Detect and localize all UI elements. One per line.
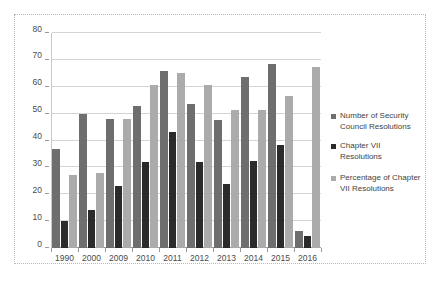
bar-2011-series-2[interactable] (177, 73, 185, 248)
x-tick-label-2014: 2014 (244, 253, 263, 263)
x-tick-mark-3 (132, 248, 133, 252)
x-tick-mark-2 (105, 248, 106, 252)
x-tick-mark-9 (294, 248, 295, 252)
y-tick-mark-0 (45, 247, 49, 248)
bar-group-2013 (213, 33, 240, 248)
bar-2000-series-0[interactable] (79, 114, 87, 248)
bar-2016-series-0[interactable] (295, 231, 303, 248)
x-tick-mark-5 (186, 248, 187, 252)
y-tick-label-40: 40 (33, 132, 42, 141)
x-tick-mark-8 (267, 248, 268, 252)
y-tick-label-50: 50 (33, 105, 42, 114)
bar-2013-series-1[interactable] (223, 184, 231, 249)
x-tick-mark-0 (51, 248, 52, 252)
x-tick-label-2009: 2009 (109, 253, 128, 263)
bar-group-2012 (186, 33, 213, 248)
legend-item-2[interactable]: Percentage of Chapter VII Resolutions (331, 173, 423, 194)
bar-2010-series-2[interactable] (150, 85, 158, 248)
bar-2014-series-1[interactable] (250, 161, 258, 248)
x-tick-label-2015: 2015 (271, 253, 290, 263)
bar-2011-series-1[interactable] (169, 132, 177, 248)
bar-2016-series-2[interactable] (312, 67, 320, 248)
x-tick-label-2012: 2012 (190, 253, 209, 263)
bar-2009-series-0[interactable] (106, 119, 114, 248)
legend-item-0[interactable]: Number of Security Council Resolutions (331, 111, 423, 132)
bar-2011-series-0[interactable] (160, 71, 168, 248)
bar-2014-series-2[interactable] (258, 110, 266, 248)
bar-2009-series-1[interactable] (115, 186, 123, 248)
bar-2000-series-1[interactable] (88, 210, 96, 248)
bar-2012-series-2[interactable] (204, 85, 212, 248)
bar-2000-series-2[interactable] (96, 173, 104, 248)
bar-group-1990 (51, 33, 78, 248)
legend-label-1: Chapter VII Resolutions (340, 141, 423, 162)
bar-group-2016 (294, 33, 321, 248)
y-tick-mark-50 (45, 113, 49, 114)
bar-2015-series-0[interactable] (268, 64, 276, 248)
x-tick-mark-7 (240, 248, 241, 252)
bar-2013-series-2[interactable] (231, 110, 239, 248)
y-tick-mark-30 (45, 166, 49, 167)
y-tick-mark-20 (45, 193, 49, 194)
y-tick-label-0: 0 (37, 239, 42, 248)
bar-group-2010 (132, 33, 159, 248)
x-tick-label-2016: 2016 (298, 253, 317, 263)
legend-label-0: Number of Security Council Resolutions (340, 111, 423, 132)
y-tick-label-30: 30 (33, 158, 42, 167)
bar-group-2009 (105, 33, 132, 248)
chart-legend: Number of Security Council ResolutionsCh… (331, 111, 423, 203)
square-marker (331, 176, 336, 181)
y-tick-label-80: 80 (33, 24, 42, 33)
x-axis: 1990200020092010201120122013201420152016 (51, 248, 321, 268)
x-tick-mark-1 (78, 248, 79, 252)
x-tick-label-2000: 2000 (82, 253, 101, 263)
x-tick-label-1990: 1990 (55, 253, 74, 263)
bar-2015-series-2[interactable] (285, 96, 293, 248)
bar-group-2000 (78, 33, 105, 248)
legend-item-1[interactable]: Chapter VII Resolutions (331, 141, 423, 162)
bar-2014-series-0[interactable] (241, 77, 249, 248)
x-tick-label-2010: 2010 (136, 253, 155, 263)
y-axis: 01020304050607080 (15, 33, 49, 248)
y-tick-mark-10 (45, 220, 49, 221)
bar-group-2011 (159, 33, 186, 248)
bar-group-2015 (267, 33, 294, 248)
bars-layer (51, 33, 321, 248)
bar-2013-series-0[interactable] (214, 120, 222, 248)
bar-2009-series-2[interactable] (123, 119, 131, 248)
bar-group-2014 (240, 33, 267, 248)
x-tick-mark-4 (159, 248, 160, 252)
square-marker (331, 144, 336, 149)
bar-2016-series-1[interactable] (304, 236, 312, 248)
bar-1990-series-0[interactable] (52, 149, 60, 248)
chart-frame: 01020304050607080 1990200020092010201120… (14, 14, 426, 264)
y-tick-mark-70 (45, 59, 49, 60)
x-tick-mark-end (321, 248, 322, 252)
y-tick-label-60: 60 (33, 78, 42, 87)
plot-area-wrapper (51, 33, 321, 248)
bar-1990-series-1[interactable] (61, 221, 69, 248)
y-tick-mark-40 (45, 140, 49, 141)
bar-2015-series-1[interactable] (277, 145, 285, 248)
y-tick-mark-60 (45, 86, 49, 87)
bar-2012-series-1[interactable] (196, 162, 204, 248)
y-tick-label-10: 10 (33, 212, 42, 221)
y-tick-mark-80 (45, 32, 49, 33)
square-marker (331, 114, 336, 119)
x-tick-mark-6 (213, 248, 214, 252)
x-tick-label-2011: 2011 (163, 253, 181, 263)
bar-2010-series-1[interactable] (142, 162, 150, 248)
y-tick-label-20: 20 (33, 185, 42, 194)
bar-2010-series-0[interactable] (133, 106, 141, 248)
x-tick-label-2013: 2013 (217, 253, 236, 263)
y-tick-label-70: 70 (33, 51, 42, 60)
bar-1990-series-2[interactable] (69, 175, 77, 248)
legend-label-2: Percentage of Chapter VII Resolutions (340, 173, 423, 194)
bar-2012-series-0[interactable] (187, 104, 195, 248)
chart-container: 01020304050607080 1990200020092010201120… (0, 0, 440, 282)
